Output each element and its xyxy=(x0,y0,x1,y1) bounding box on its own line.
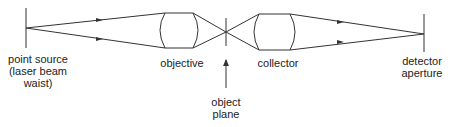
objective-label: objective xyxy=(150,57,214,69)
ray-lower-4 xyxy=(290,34,424,50)
detector-aperture-label: detector aperture xyxy=(394,55,450,79)
objective-lens xyxy=(160,13,198,48)
ray-upper-1 xyxy=(26,13,165,28)
object-plane-label: object plane xyxy=(206,96,246,120)
ray-lower-1 xyxy=(26,28,165,48)
point-source-label: point source (laser beam waist) xyxy=(0,53,76,89)
collector-label: collector xyxy=(246,57,310,69)
arrow-icon xyxy=(96,18,103,22)
arrow-icon xyxy=(337,20,344,24)
arrow-icon xyxy=(96,37,103,41)
ray-upper-4 xyxy=(290,14,424,34)
collector-lens xyxy=(254,14,295,50)
arrow-icon xyxy=(223,59,229,66)
